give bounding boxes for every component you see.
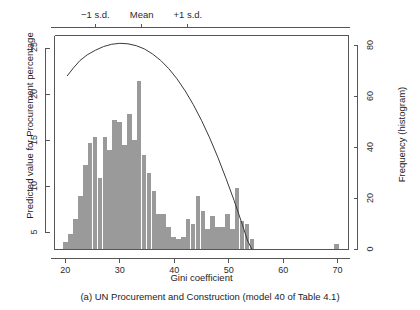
prediction-curve — [67, 43, 252, 249]
figure-panel: Predicted value for Procurement percenta… — [0, 0, 420, 310]
plot-vector-layer — [0, 0, 420, 310]
